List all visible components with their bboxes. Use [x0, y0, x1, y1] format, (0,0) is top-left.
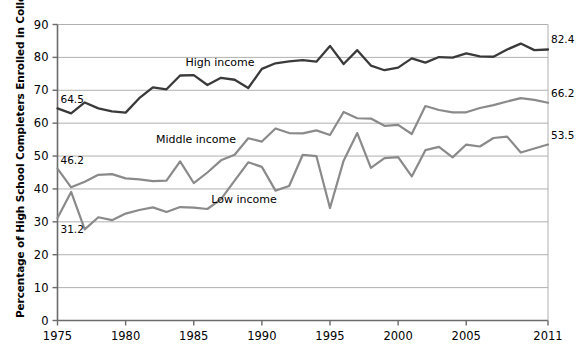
x-axis-tick-label: 2000 — [383, 329, 412, 343]
start-value-label-31.2: 31.2 — [61, 223, 84, 235]
x-axis-tick-label: 1975 — [43, 329, 72, 343]
y-axis-tick-label: 50 — [0, 149, 49, 163]
x-axis-tick-label: 1985 — [179, 329, 208, 343]
endpoint-value-label-82.4: 82.4 — [551, 33, 574, 45]
y-axis-tick-label: 40 — [0, 182, 49, 196]
series-line-middle-income — [58, 98, 549, 187]
x-axis-tick-label: 1980 — [111, 329, 140, 343]
line-chart: Percentage of High School Completers Enr… — [0, 0, 576, 357]
y-axis-tick-label: 20 — [0, 248, 49, 262]
start-value-label-64.5: 64.5 — [61, 93, 84, 105]
x-axis-tick-label: 2005 — [452, 329, 481, 343]
y-axis-tick-label: 80 — [0, 50, 49, 64]
series-label-low-income: Low income — [211, 193, 276, 206]
y-axis-tick-label: 60 — [0, 116, 49, 130]
endpoint-value-label-66.2: 66.2 — [551, 87, 574, 99]
y-axis-tick-label: 0 — [0, 314, 49, 328]
series-label-high-income: High income — [185, 56, 254, 69]
start-value-label-46.2: 46.2 — [61, 154, 84, 166]
y-axis-tick-label: 10 — [0, 281, 49, 295]
series-line-high-income — [58, 44, 549, 114]
chart-plot-area — [0, 0, 576, 357]
series-label-middle-income: Middle income — [156, 133, 236, 146]
y-axis-tick-label: 70 — [0, 83, 49, 97]
y-axis-tick-label: 90 — [0, 18, 49, 32]
series-line-low-income — [58, 133, 549, 229]
x-axis-tick-label: 2011 — [533, 329, 562, 343]
endpoint-value-label-53.5: 53.5 — [551, 129, 574, 141]
y-axis-tick-label: 30 — [0, 215, 49, 229]
x-axis-tick-label: 1990 — [247, 329, 276, 343]
x-axis-tick-label: 1995 — [315, 329, 344, 343]
